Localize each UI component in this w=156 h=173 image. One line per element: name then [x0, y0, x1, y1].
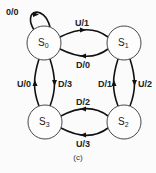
transition-label: U/2 [138, 79, 152, 89]
transition-label: D/2 [76, 97, 90, 107]
transition-s3-s2: U/3 [61, 128, 108, 149]
transition-s1-s0: D/0 [60, 49, 108, 70]
transition-label: D/1 [98, 79, 112, 89]
transition-label: 0/0 [6, 7, 19, 17]
transition-label: U/3 [76, 139, 90, 149]
arrowhead-icon [33, 80, 38, 86]
arrowhead-icon [80, 28, 86, 33]
transition-s3-s0: U/0 [17, 59, 39, 106]
transition-s1-s2: U/2 [130, 59, 152, 106]
arrowhead-icon [80, 133, 86, 138]
transition-s0-s1: U/1 [60, 18, 108, 37]
state-subscript: 0 [45, 42, 49, 49]
state-subscript: 1 [125, 42, 129, 49]
transition-label: D/3 [58, 79, 72, 89]
diagram-canvas: 0/0 U/1 D/0 D/1 U/2 U/0 [0, 0, 156, 173]
figure-caption: (c) [73, 153, 83, 162]
state-subscript: 2 [125, 121, 129, 128]
transition-s0-s3: D/3 [50, 59, 72, 106]
arrowhead-icon [80, 107, 86, 112]
state-s3: S3 [28, 105, 62, 139]
arrowhead-icon [132, 80, 137, 86]
transition-label: D/0 [76, 60, 90, 70]
state-subscript: 3 [46, 121, 50, 128]
arrowhead-icon [112, 80, 117, 86]
transition-s2-s1: D/1 [98, 59, 118, 106]
arrowhead-icon [52, 80, 57, 86]
state-s2: S2 [107, 105, 141, 139]
transition-label: U/0 [17, 79, 31, 89]
state-s1: S1 [107, 26, 141, 60]
state-diagram: 0/0 U/1 D/0 D/1 U/2 U/0 [0, 0, 156, 173]
transition-label: U/1 [75, 18, 89, 28]
arrowhead-icon [80, 54, 86, 59]
state-s0: S0 [27, 26, 61, 60]
transition-s2-s3: D/2 [61, 97, 108, 116]
